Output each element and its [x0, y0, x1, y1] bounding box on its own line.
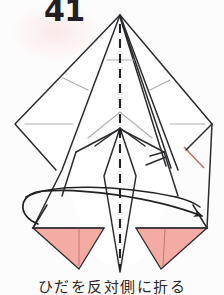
right-edge-back-colour: [184, 147, 204, 168]
step-caption: ひだを反対側に折る: [0, 280, 224, 295]
step-number: 41: [44, 0, 85, 26]
right-flap-side: [193, 205, 207, 228]
fold-arrow-loop-tail: [176, 197, 200, 207]
left-flap-side: [33, 205, 47, 228]
